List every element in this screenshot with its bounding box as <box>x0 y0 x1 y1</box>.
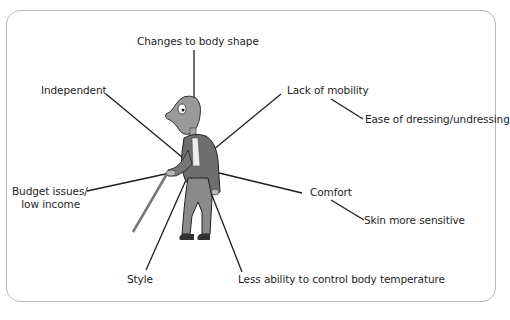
connector-lines <box>0 0 510 320</box>
label-ease-dressing: Ease of dressing/undressing <box>365 113 510 126</box>
label-changes-body-shape: Changes to body shape <box>137 35 259 48</box>
line-ease-dressing <box>331 99 363 119</box>
line-style <box>146 180 186 270</box>
label-skin-sensitive: Skin more sensitive <box>364 214 465 227</box>
elderly-man-illustration <box>133 96 220 240</box>
label-style: Style <box>127 273 153 286</box>
label-budget: Budget issues/ low income <box>12 185 80 211</box>
line-lack-mobility <box>213 94 281 150</box>
label-lack-mobility: Lack of mobility <box>287 84 369 97</box>
label-budget-line1: Budget issues/ <box>12 185 80 198</box>
label-independent: Independent <box>41 84 106 97</box>
label-less-ability-temperature: Less ability to control body temperature <box>238 273 445 286</box>
line-skin-sensitive <box>331 200 364 220</box>
label-comfort: Comfort <box>310 186 352 199</box>
label-budget-line2: low income <box>12 198 80 211</box>
line-comfort <box>215 172 302 193</box>
